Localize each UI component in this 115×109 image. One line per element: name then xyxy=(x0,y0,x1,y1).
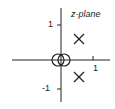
plot-title: z-plane xyxy=(71,10,101,19)
pole-marker-lower xyxy=(74,72,84,82)
y-tick-label-pos: 1 xyxy=(48,20,53,29)
x-tick-label-pos: 1 xyxy=(93,64,98,73)
y-tick-label-neg: -1 xyxy=(42,84,50,93)
pole-marker-upper xyxy=(74,34,84,44)
